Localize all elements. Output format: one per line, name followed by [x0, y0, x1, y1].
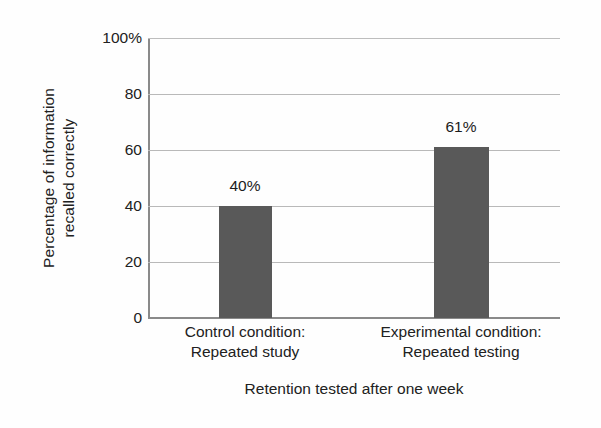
gridline-60 [148, 150, 560, 151]
y-tick-label-40: 40 [70, 197, 142, 215]
x-category-experimental-line-2: Repeated testing [380, 342, 541, 362]
y-tick-label-100: 100% [70, 29, 142, 47]
bar-control-condition [219, 206, 272, 318]
x-category-control-line-1: Control condition: [185, 322, 306, 342]
bar-value-label-control: 40% [229, 177, 260, 195]
x-category-control: Control condition: Repeated study [185, 322, 306, 362]
gridline-80 [148, 94, 560, 95]
y-tick-label-80: 80 [70, 85, 142, 103]
plot-area: 40% 61% [148, 38, 560, 318]
y-tick-label-0: 0 [70, 309, 142, 327]
gridline-20 [148, 262, 560, 263]
x-category-experimental: Experimental condition: Repeated testing [380, 322, 541, 362]
bar-value-label-experimental: 61% [445, 118, 476, 136]
bar-experimental-condition [434, 147, 489, 318]
x-axis-category-labels: Control condition: Repeated study Experi… [148, 322, 560, 372]
bar-chart-figure: Percentage of information recalled corre… [0, 0, 601, 428]
y-tick-label-20: 20 [70, 253, 142, 271]
y-tick-label-60: 60 [70, 141, 142, 159]
gridline-40 [148, 206, 560, 207]
y-axis-line [148, 38, 150, 318]
gridline-100 [148, 38, 560, 39]
x-category-experimental-line-1: Experimental condition: [380, 322, 541, 342]
y-axis-tick-labels: 100% 80 60 40 20 0 [70, 0, 142, 428]
x-category-control-line-2: Repeated study [185, 342, 306, 362]
x-axis-line [148, 317, 560, 319]
x-axis-title: Retention tested after one week [148, 380, 560, 398]
y-axis-title-line-1: Percentage of information [39, 88, 59, 268]
